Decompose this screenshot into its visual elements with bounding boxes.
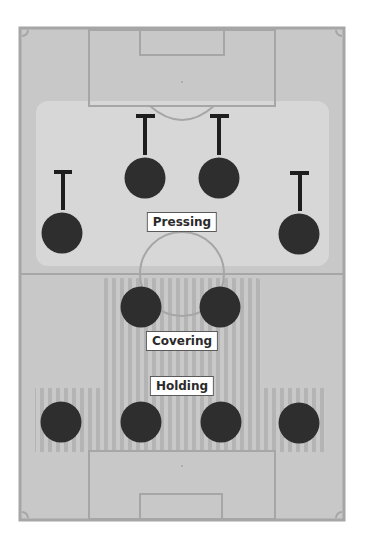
zone-label-holding: Holding bbox=[150, 376, 214, 396]
player-disc-icon bbox=[121, 402, 162, 443]
zone-label-pressing: Pressing bbox=[147, 212, 217, 232]
zone-label-covering: Covering bbox=[146, 331, 218, 351]
player-disc-icon bbox=[200, 287, 241, 328]
player-disc-icon bbox=[121, 287, 162, 328]
player-disc-icon bbox=[279, 403, 320, 444]
player-disc-icon bbox=[125, 158, 166, 199]
pitch-diagram bbox=[0, 0, 366, 556]
player-disc-icon bbox=[41, 402, 82, 443]
top-penalty-spot bbox=[181, 81, 183, 83]
player-disc-icon bbox=[42, 213, 83, 254]
player-disc-icon bbox=[201, 402, 242, 443]
player-disc-icon bbox=[199, 158, 240, 199]
player-disc-icon bbox=[279, 214, 320, 255]
bottom-penalty-spot bbox=[181, 465, 183, 467]
